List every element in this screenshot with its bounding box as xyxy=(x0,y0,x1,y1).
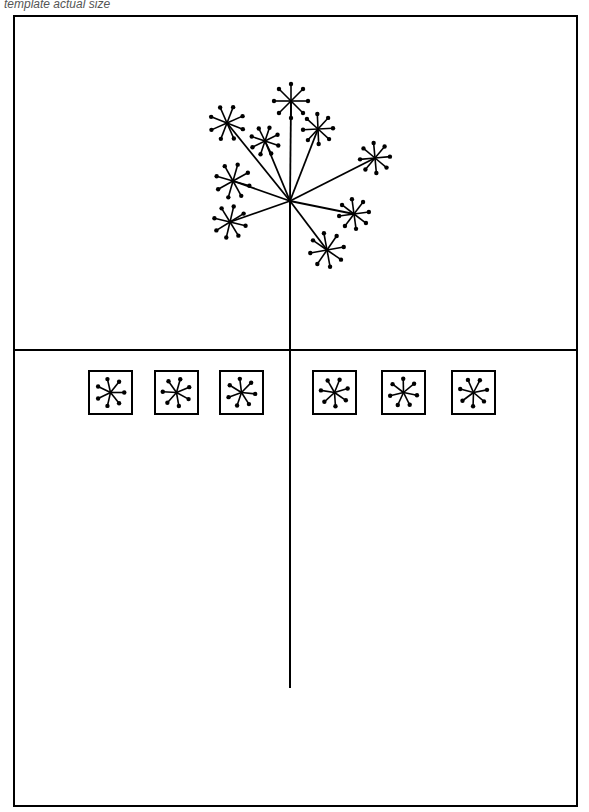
umbel-tile xyxy=(382,371,425,414)
umbel xyxy=(212,201,290,240)
umbel-tile xyxy=(155,371,198,414)
umbel-template-diagram xyxy=(0,0,589,812)
umbel-tile xyxy=(220,371,263,414)
umbel-tile xyxy=(89,371,132,414)
ray-line xyxy=(230,201,290,222)
umbel xyxy=(214,162,290,201)
umbel xyxy=(290,141,392,201)
ray-line xyxy=(290,129,318,201)
umbel xyxy=(290,197,371,231)
umbel-tile xyxy=(313,371,356,414)
umbel xyxy=(272,82,310,201)
ray-line xyxy=(290,201,327,250)
ray-line xyxy=(290,158,375,201)
umbel xyxy=(290,112,335,201)
umbel-tile xyxy=(452,371,495,414)
